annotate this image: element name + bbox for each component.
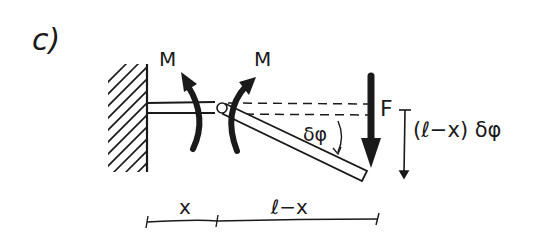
beam-rotated-segment — [223, 104, 367, 181]
force-label: F — [380, 96, 393, 121]
beam-left-segment — [147, 102, 215, 113]
dimension-x-label: x — [179, 195, 191, 219]
moment-left-arrow-icon — [181, 72, 199, 149]
hinge-icon — [217, 103, 227, 113]
undeformed-reference-dashed — [228, 103, 372, 115]
dimension-rest-label: ℓ−x — [270, 195, 308, 219]
moment-right-label: M — [254, 47, 271, 71]
angle-arc-arrow-icon — [333, 121, 342, 154]
force-arrow-icon — [361, 76, 381, 168]
deflection-dimension-arrow-icon — [399, 110, 411, 178]
deflection-label: (ℓ−x) δφ — [413, 118, 501, 142]
cantilever-virtual-work-diagram: c) M — [0, 0, 534, 246]
panel-label: c) — [32, 22, 60, 57]
wall-hatching — [100, 60, 160, 180]
moment-left-label: M — [159, 47, 176, 71]
angle-label: δφ — [303, 123, 327, 145]
fixed-wall — [100, 60, 160, 180]
